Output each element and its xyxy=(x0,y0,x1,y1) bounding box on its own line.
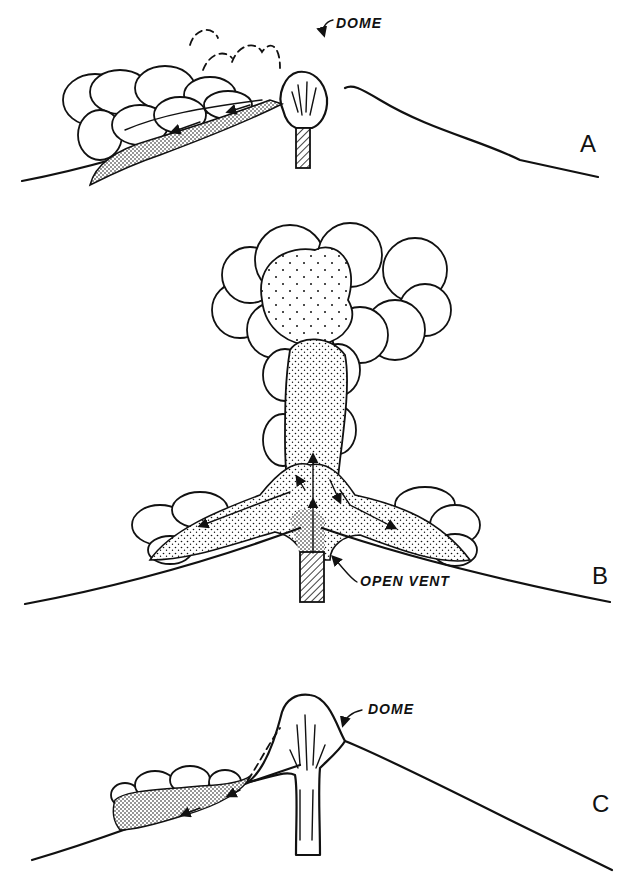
dome-arrow-a xyxy=(323,20,333,35)
pyroclastic-flow-a xyxy=(63,66,282,185)
open-vent-arrow xyxy=(333,557,357,582)
conduit-b xyxy=(300,552,324,602)
dashed-collapse-outline xyxy=(190,30,280,70)
lava-dome-a xyxy=(281,72,328,168)
pyroclastic-flow-c xyxy=(111,766,250,830)
dome-label-a: DOME xyxy=(336,15,382,31)
panel-b: OPEN VENT B xyxy=(25,223,610,604)
panel-letter-b: B xyxy=(592,562,608,589)
conduit-a xyxy=(296,128,310,168)
panel-letter-c: C xyxy=(592,790,609,817)
dome-label-c: DOME xyxy=(368,701,414,717)
panel-a: DOME A xyxy=(22,15,598,185)
pyroclastic-surge-b xyxy=(132,464,480,566)
lava-dome-c xyxy=(248,695,345,855)
open-vent-label: OPEN VENT xyxy=(360,573,450,589)
panel-c: DOME C xyxy=(32,695,612,870)
volcano-eruption-diagram: DOME A xyxy=(0,0,631,884)
dome-arrow-c xyxy=(343,710,362,725)
panel-letter-a: A xyxy=(580,130,596,157)
